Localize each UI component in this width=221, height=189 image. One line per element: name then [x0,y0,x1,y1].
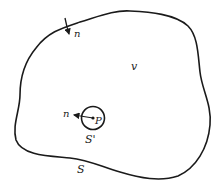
outer-surface-S [15,11,210,179]
outer-normal-tick [65,18,67,27]
outer-normal-arrow-icon [67,27,69,34]
point-label: P [94,115,102,126]
inner-normal-label: n [63,108,69,119]
diagram-canvas: n v n P S' S [0,0,221,189]
inner-normal-arrow-icon [74,115,93,118]
inner-surface-label: S' [85,133,96,146]
volume-label: v [131,60,138,73]
outer-normal-label: n [74,28,80,39]
outer-surface-label: S [77,163,85,176]
